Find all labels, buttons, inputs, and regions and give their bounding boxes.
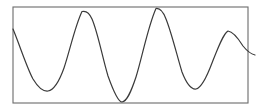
plot-border bbox=[13, 7, 248, 103]
waveform-plot bbox=[0, 0, 263, 111]
figure-container bbox=[0, 0, 263, 111]
